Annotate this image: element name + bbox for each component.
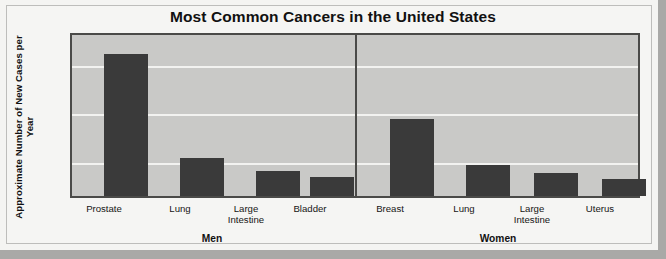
x-label-men-large-intestine: Large Intestine bbox=[218, 203, 274, 225]
chart-figure: Most Common Cancers in the United States… bbox=[0, 0, 666, 259]
plot-area bbox=[70, 33, 640, 198]
bar-men-bladder bbox=[310, 177, 354, 196]
bar-women-large-intestine bbox=[534, 173, 578, 196]
panel-divider bbox=[355, 35, 357, 196]
x-label-women-breast: Breast bbox=[358, 203, 422, 214]
x-label-women-lung: Lung bbox=[432, 203, 496, 214]
x-label-men-prostate: Prostate bbox=[72, 203, 136, 214]
y-axis-title: Approximate Number of New Cases per Year bbox=[13, 27, 35, 227]
bar-women-uterus bbox=[602, 179, 646, 196]
x-label-men-bladder: Bladder bbox=[278, 203, 342, 214]
x-label-women-large-intestine: Large Intestine bbox=[504, 203, 560, 225]
bar-men-prostate bbox=[104, 54, 148, 196]
bar-men-large-intestine bbox=[256, 171, 300, 196]
bar-men-lung bbox=[180, 158, 224, 196]
bar-women-lung bbox=[466, 165, 510, 196]
chart-title: Most Common Cancers in the United States bbox=[0, 8, 666, 26]
x-label-women-uterus: Uterus bbox=[568, 203, 632, 214]
bar-women-breast bbox=[390, 119, 434, 196]
x-label-men-lung: Lung bbox=[148, 203, 212, 214]
group-label-men: Men bbox=[70, 233, 354, 244]
group-label-women: Women bbox=[356, 233, 640, 244]
